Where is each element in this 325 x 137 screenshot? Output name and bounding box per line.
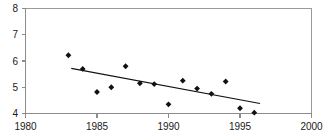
y-tick-label-7: 7 xyxy=(12,29,18,40)
y-tick-labels: 4 5 6 7 8 xyxy=(12,3,18,119)
x-tick-marks xyxy=(26,114,312,119)
data-point xyxy=(66,52,72,58)
data-point xyxy=(251,110,257,116)
y-tick-label-4: 4 xyxy=(12,108,18,119)
data-point xyxy=(166,101,172,107)
x-tick-label-1980: 1980 xyxy=(14,121,37,132)
x-tick-label-1995: 1995 xyxy=(229,121,252,132)
x-tick-label-1985: 1985 xyxy=(86,121,109,132)
chart-figure: 4 5 6 7 8 1980 1985 1990 1995 2000 xyxy=(0,0,325,137)
scatter-plot-svg: 4 5 6 7 8 1980 1985 1990 1995 2000 xyxy=(0,0,325,137)
y-tick-label-8: 8 xyxy=(12,3,18,14)
trend-line xyxy=(71,68,260,103)
data-point xyxy=(180,78,186,84)
data-point xyxy=(237,105,243,111)
plot-frame xyxy=(26,9,312,114)
data-points-group xyxy=(66,52,258,115)
x-tick-labels: 1980 1985 1990 1995 2000 xyxy=(14,121,323,132)
data-point xyxy=(151,81,157,87)
data-point xyxy=(108,84,114,90)
data-point xyxy=(194,86,200,92)
data-point xyxy=(209,91,215,97)
x-tick-label-1990: 1990 xyxy=(157,121,180,132)
y-tick-label-5: 5 xyxy=(12,82,18,93)
y-tick-marks xyxy=(22,9,26,114)
data-point xyxy=(123,63,129,69)
data-point xyxy=(223,79,229,85)
y-tick-label-6: 6 xyxy=(12,56,18,67)
x-tick-label-2000: 2000 xyxy=(300,121,323,132)
data-point xyxy=(94,89,100,95)
